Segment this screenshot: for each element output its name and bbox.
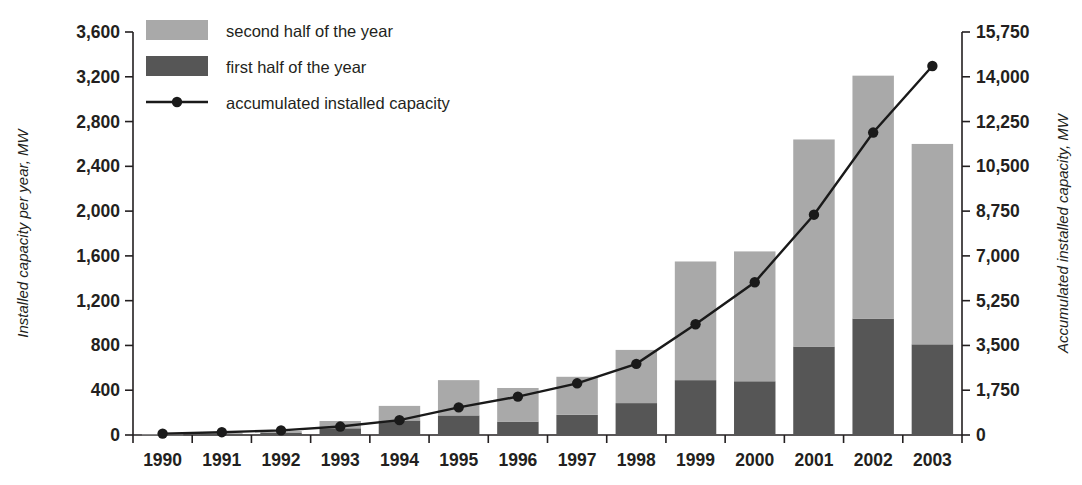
x-axis-category-label: 1995 bbox=[439, 450, 478, 470]
x-axis-category-label: 1997 bbox=[558, 450, 597, 470]
bar-segment-second-half bbox=[852, 76, 893, 319]
right-axis-tick-label: 15,750 bbox=[976, 22, 1030, 42]
left-axis-tick-label: 1,200 bbox=[76, 291, 120, 311]
accumulated-line-point bbox=[868, 127, 878, 137]
x-axis-category-label: 1992 bbox=[262, 450, 301, 470]
bar-segment-first-half bbox=[675, 380, 716, 435]
accumulated-line-point bbox=[335, 421, 345, 431]
accumulated-line-point bbox=[453, 402, 463, 412]
bar-segment-first-half bbox=[616, 403, 657, 435]
legend-label: accumulated installed capacity bbox=[226, 94, 451, 112]
bar-segment-second-half bbox=[793, 139, 834, 346]
left-axis-tick-label: 800 bbox=[91, 335, 120, 355]
right-axis-tick-label: 8,750 bbox=[976, 201, 1020, 221]
right-axis-tick-label: 3,500 bbox=[976, 335, 1020, 355]
legend-swatch bbox=[146, 56, 208, 76]
x-axis-category-label: 1993 bbox=[321, 450, 360, 470]
left-axis-tick-label: 400 bbox=[91, 380, 120, 400]
right-axis-tick-label: 7,000 bbox=[976, 246, 1020, 266]
left-axis-tick-label: 3,600 bbox=[76, 22, 120, 42]
right-axis-title: Accumulated installed capacity, MW bbox=[1054, 112, 1071, 354]
bar-segment-first-half bbox=[852, 319, 893, 435]
accumulated-line-point bbox=[750, 277, 760, 287]
x-axis-category-label: 1996 bbox=[498, 450, 537, 470]
left-axis-tick-label: 2,400 bbox=[76, 156, 120, 176]
legend-label: second half of the year bbox=[226, 22, 393, 40]
bar-segment-second-half bbox=[734, 251, 775, 381]
x-axis-category-label: 1994 bbox=[380, 450, 419, 470]
accumulated-line-point bbox=[690, 319, 700, 329]
chart-svg: 04008001,2001,6002,0002,4002,8003,2003,6… bbox=[0, 0, 1082, 485]
legend-line-point bbox=[172, 97, 182, 107]
bar-segment-first-half bbox=[793, 347, 834, 435]
bar-segment-first-half bbox=[912, 344, 953, 435]
accumulated-line-point bbox=[394, 415, 404, 425]
right-axis-tick-label: 14,000 bbox=[976, 67, 1030, 87]
legend-label: first half of the year bbox=[226, 58, 367, 76]
bar-segment-first-half bbox=[556, 415, 597, 435]
left-axis-tick-label: 3,200 bbox=[76, 67, 120, 87]
right-axis-tick-label: 12,250 bbox=[976, 112, 1030, 132]
left-axis-tick-label: 2,000 bbox=[76, 201, 120, 221]
right-axis-tick-label: 0 bbox=[976, 425, 986, 445]
bar-segment-second-half bbox=[616, 350, 657, 403]
bar-segment-first-half bbox=[734, 381, 775, 435]
accumulated-line-point bbox=[217, 427, 227, 437]
accumulated-line-point bbox=[276, 425, 286, 435]
chart-container: 04008001,2001,6002,0002,4002,8003,2003,6… bbox=[0, 0, 1082, 485]
x-axis-category-label: 2002 bbox=[854, 450, 893, 470]
left-axis-tick-label: 2,800 bbox=[76, 112, 120, 132]
accumulated-line-point bbox=[572, 378, 582, 388]
bar-segment-second-half bbox=[912, 144, 953, 344]
x-axis-category-label: 1998 bbox=[617, 450, 656, 470]
accumulated-line-point bbox=[513, 391, 523, 401]
bar-segment-first-half bbox=[438, 415, 479, 435]
left-axis-title: Installed capacity per year, MW bbox=[14, 127, 31, 337]
right-axis-tick-label: 5,250 bbox=[976, 291, 1020, 311]
x-axis-category-label: 1990 bbox=[143, 450, 182, 470]
accumulated-line-point bbox=[809, 209, 819, 219]
accumulated-line-point bbox=[157, 428, 167, 438]
x-axis-category-label: 2001 bbox=[794, 450, 833, 470]
x-axis-category-label: 1999 bbox=[676, 450, 715, 470]
left-axis-tick-label: 0 bbox=[110, 425, 120, 445]
left-axis-tick-label: 1,600 bbox=[76, 246, 120, 266]
x-axis-category-label: 2003 bbox=[913, 450, 952, 470]
x-axis-category-label: 1991 bbox=[202, 450, 241, 470]
right-axis-tick-label: 10,500 bbox=[976, 156, 1030, 176]
bar-segment-first-half bbox=[497, 422, 538, 435]
accumulated-line-point bbox=[927, 61, 937, 71]
right-axis-tick-label: 1,750 bbox=[976, 380, 1020, 400]
accumulated-line-point bbox=[631, 359, 641, 369]
x-axis-category-label: 2000 bbox=[735, 450, 774, 470]
legend-swatch bbox=[146, 20, 208, 40]
